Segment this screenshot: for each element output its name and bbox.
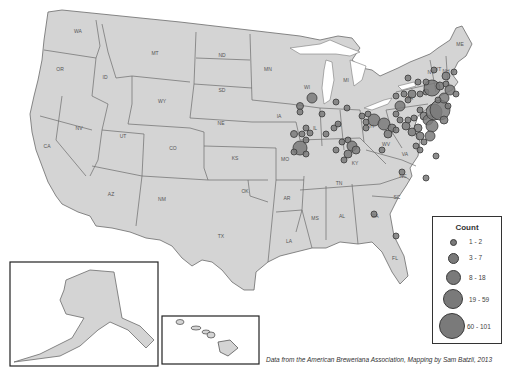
count-bubble bbox=[303, 125, 309, 131]
state-label-nm: NM bbox=[158, 196, 166, 202]
legend-circle-icon bbox=[439, 313, 465, 339]
count-bubble bbox=[319, 111, 325, 117]
count-bubble bbox=[359, 113, 365, 119]
legend-circle-icon bbox=[446, 270, 461, 285]
legend-circle-icon bbox=[443, 289, 463, 309]
count-bubble bbox=[435, 97, 441, 103]
data-credit: Data from the American Breweriana Associ… bbox=[266, 356, 492, 363]
count-bubble bbox=[423, 175, 429, 181]
count-bubble bbox=[416, 132, 424, 140]
us-map: WAORIDMTNDSDMNWYNENVUTCOCAKSIAWIMIMOAZNM… bbox=[0, 0, 506, 372]
count-bubble bbox=[426, 120, 438, 132]
count-bubble bbox=[453, 91, 459, 97]
count-bubble bbox=[395, 101, 405, 111]
count-bubble bbox=[433, 153, 439, 159]
state-label-id: ID bbox=[103, 74, 108, 80]
count-bubble bbox=[442, 72, 450, 80]
state-label-ks: KS bbox=[232, 155, 239, 161]
legend-circle-icon bbox=[448, 253, 459, 264]
count-bubble bbox=[399, 169, 405, 175]
count-bubble bbox=[417, 91, 423, 97]
state-label-wy: WY bbox=[158, 98, 167, 104]
legend-item-2: 3 - 7 bbox=[433, 250, 501, 270]
count-bubble bbox=[393, 233, 399, 239]
state-label-mn: MN bbox=[264, 66, 272, 72]
count-bubble bbox=[303, 151, 309, 157]
legend-title: Count bbox=[433, 223, 501, 232]
count-bubble bbox=[411, 115, 417, 121]
state-label-ok: OK bbox=[241, 188, 249, 194]
state-label-sc: SC bbox=[394, 194, 401, 200]
count-bubble bbox=[344, 150, 352, 158]
count-bubble bbox=[339, 139, 345, 145]
count-bubble bbox=[408, 90, 416, 98]
state-label-tn: TN bbox=[336, 180, 343, 186]
count-bubble bbox=[451, 69, 457, 75]
state-label-wa: WA bbox=[74, 28, 83, 34]
count-bubble bbox=[397, 117, 403, 123]
legend-circle-icon bbox=[450, 239, 457, 246]
count-bubble bbox=[297, 109, 303, 115]
state-label-mt: MT bbox=[151, 50, 158, 56]
count-bubble bbox=[415, 79, 421, 85]
state-label-ar: AR bbox=[284, 195, 291, 201]
state-label-me: ME bbox=[456, 41, 464, 47]
state-label-mo: MO bbox=[281, 156, 289, 162]
state-label-al: AL bbox=[339, 213, 345, 219]
legend-item-3: 8 - 18 bbox=[433, 268, 501, 288]
state-label-or: OR bbox=[56, 66, 64, 72]
state-label-nv: NV bbox=[76, 125, 84, 131]
state-label-ky: KY bbox=[352, 160, 359, 166]
count-bubble bbox=[408, 128, 416, 136]
count-bubble bbox=[344, 105, 350, 111]
state-label-co: CO bbox=[169, 145, 177, 151]
count-bubble bbox=[307, 130, 313, 136]
count-bubble bbox=[323, 131, 329, 137]
legend-label: 19 - 59 bbox=[469, 296, 489, 303]
state-label-la: LA bbox=[286, 238, 293, 244]
state-label-fl: FL bbox=[392, 255, 398, 261]
count-bubble bbox=[401, 91, 407, 97]
count-bubble bbox=[341, 157, 347, 163]
count-bubble bbox=[393, 93, 399, 99]
state-label-nd: ND bbox=[218, 52, 226, 58]
count-bubble bbox=[425, 131, 435, 141]
count-bubble bbox=[335, 121, 341, 127]
count-bubble bbox=[299, 131, 305, 137]
state-label-mi: MI bbox=[343, 77, 349, 83]
count-bubble bbox=[417, 147, 423, 153]
count-bubble bbox=[379, 147, 385, 153]
state-label-ms: MS bbox=[311, 215, 319, 221]
count-bubble bbox=[393, 127, 399, 133]
state-label-ca: CA bbox=[44, 143, 52, 149]
state-label-va: VA bbox=[402, 151, 409, 157]
count-bubble bbox=[421, 139, 427, 145]
count-bubble bbox=[297, 103, 304, 110]
legend-box: Count 1 - 2 3 - 7 8 - 18 19 - 59 60 - 10… bbox=[432, 216, 502, 344]
count-bubble bbox=[371, 211, 377, 217]
count-bubble bbox=[352, 146, 360, 154]
count-bubble bbox=[423, 79, 429, 85]
legend-label: 1 - 2 bbox=[469, 238, 482, 245]
legend-label: 8 - 18 bbox=[469, 274, 486, 281]
legend-item-5: 60 - 101 bbox=[433, 313, 501, 333]
count-bubble bbox=[333, 99, 339, 105]
state-label-il: IL bbox=[313, 125, 317, 131]
count-bubble bbox=[405, 117, 411, 123]
state-label-wv: WV bbox=[382, 141, 391, 147]
count-bubble bbox=[445, 103, 451, 109]
count-bubble bbox=[291, 149, 297, 155]
count-bubble bbox=[307, 93, 317, 103]
state-label-ut: UT bbox=[120, 133, 127, 139]
state-label-sd: SD bbox=[219, 87, 226, 93]
legend-label: 60 - 101 bbox=[467, 323, 491, 330]
count-bubble bbox=[440, 116, 448, 124]
state-label-wi: WI bbox=[304, 84, 310, 90]
count-bubble bbox=[363, 125, 369, 131]
count-bubble bbox=[384, 130, 392, 138]
state-label-ne: NE bbox=[218, 120, 226, 126]
count-bubble bbox=[405, 75, 411, 81]
state-label-az: AZ bbox=[108, 191, 114, 197]
count-bubble bbox=[431, 67, 437, 73]
legend-label: 3 - 7 bbox=[469, 254, 482, 261]
